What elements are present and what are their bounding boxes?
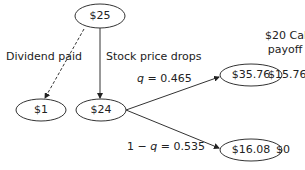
- payoff-down-value: $0: [276, 144, 290, 156]
- payoff-header-line2: payoff: [265, 43, 305, 57]
- dividend-paid-label: Dividend paid: [6, 51, 82, 63]
- node-down-label: $16.08: [220, 144, 282, 156]
- q-variable: q: [137, 72, 144, 85]
- node-after-drop-label: $24: [76, 104, 126, 116]
- payoff-header-line1: $20 Call: [265, 29, 305, 43]
- node-root-label: $25: [75, 10, 125, 22]
- node-dividend-label: $1: [16, 104, 66, 116]
- one-minus-prefix: 1 −: [127, 140, 150, 153]
- up-probability-label: q = 0.465: [137, 73, 192, 85]
- payoff-up-value: $15.76: [268, 69, 305, 81]
- payoff-header: $20 Call payoff: [265, 29, 305, 57]
- down-probability-value: = 0.535: [157, 140, 205, 153]
- down-probability-label: 1 − q = 0.535: [127, 141, 205, 153]
- stock-price-drops-label: Stock price drops: [106, 51, 202, 63]
- up-probability-value: = 0.465: [144, 72, 192, 85]
- edge-dividend: [45, 29, 84, 98]
